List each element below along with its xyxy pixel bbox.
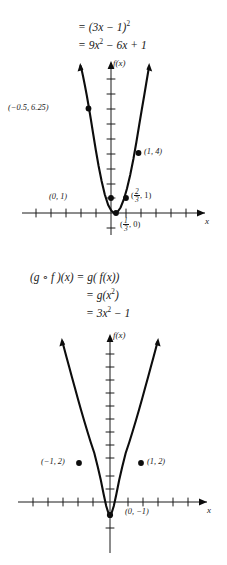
middle-equation-line-3-tail: − 1: [111, 307, 130, 319]
dot-one-two: [138, 460, 144, 466]
graph-top-y-axis-label: f(x): [113, 59, 126, 68]
label-point-neg-one-two: (−1, 2): [41, 458, 65, 466]
middle-equation-lhs: (g ∘ f )(x): [30, 271, 74, 283]
middle-equation-line-2: = g(x2): [86, 290, 119, 302]
middle-equation-line-3: = 3x2 − 1: [86, 308, 130, 320]
middle-equation-line-3-lead: = 3x: [86, 307, 108, 319]
fraction-one-third-numerator: 1: [123, 217, 129, 225]
dot-zero-neg-one: [107, 512, 113, 518]
dot-one-four: [136, 150, 142, 156]
fraction-two-thirds: 23: [134, 188, 140, 204]
fraction-two-thirds-denominator: 3: [134, 195, 140, 204]
top-equation-line-2-tail: − 6x + 1: [103, 39, 147, 51]
top-equation-line-2-lead: = 9x: [78, 39, 100, 51]
graph-top: f(x) x (−0.5, 6.25) (1, 4) (0, 1) (23, 1…: [0, 55, 227, 240]
middle-equation-rhs: = g( f(x)): [77, 271, 120, 283]
label-point-zero-one: (0, 1): [49, 193, 67, 201]
label-two-thirds-close: , 1): [140, 191, 151, 200]
y-axis-bottom: [106, 334, 115, 553]
dot-neg-half-6-25: [86, 106, 92, 112]
graph-top-x-axis-label: x: [205, 217, 209, 226]
dot-one-third-zero: [113, 210, 119, 216]
graph-bottom: f(x) x (−1, 2) (1, 2) (0, −1): [0, 328, 227, 565]
fraction-one-third: 13: [123, 217, 129, 233]
fraction-two-thirds-numerator: 2: [134, 188, 140, 196]
top-equation-line-1: = (3x − 1)2: [78, 22, 130, 34]
graph-bottom-x-axis-label: x: [207, 506, 211, 515]
graph-bottom-y-axis-label: f(x): [113, 331, 126, 340]
x-axis-bottom: [18, 498, 207, 507]
graph-bottom-svg: [0, 328, 227, 565]
label-point-two-thirds: (23, 1): [131, 188, 151, 204]
top-equation-line-1-exponent: 2: [126, 20, 130, 28]
top-equation-line-2: = 9x2 − 6x + 1: [78, 40, 147, 52]
middle-equation-line-1: (g ∘ f )(x) = g( f(x)): [30, 272, 119, 284]
label-point-neg-half: (−0.5, 6.25): [8, 104, 49, 112]
label-point-zero-neg-one: (0, −1): [125, 508, 149, 516]
dot-neg-one-two: [76, 460, 82, 466]
top-equation-line-1-text: = (3x − 1): [78, 21, 126, 33]
fraction-one-third-denominator: 3: [123, 224, 129, 233]
label-point-one-third: (13, 0): [120, 217, 140, 233]
graph-top-svg: [0, 55, 227, 240]
label-point-one-two: (1, 2): [147, 458, 165, 466]
label-one-third-close: , 0): [129, 220, 140, 229]
middle-equation-line-2-lead: = g(x: [86, 289, 111, 301]
dot-two-thirds-one: [123, 195, 129, 201]
label-point-one-four: (1, 4): [144, 148, 162, 156]
middle-equation-line-2-tail: ): [115, 289, 119, 301]
dot-zero-one: [108, 195, 114, 201]
